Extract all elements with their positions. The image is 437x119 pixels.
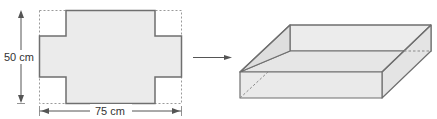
open-box <box>240 25 431 98</box>
height-label: 50 cm <box>4 51 34 63</box>
transform-arrow-icon <box>193 55 232 60</box>
cross-net-shape <box>40 11 182 104</box>
net-to-box-diagram: 50 cm 75 cm <box>0 0 437 119</box>
width-label: 75 cm <box>95 105 125 117</box>
